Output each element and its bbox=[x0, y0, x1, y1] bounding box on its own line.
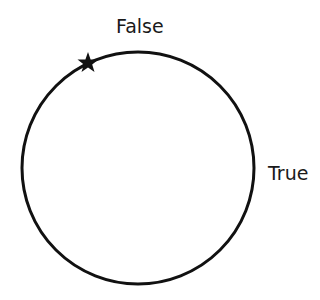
state-circle bbox=[22, 52, 254, 284]
label-true: True bbox=[268, 162, 308, 184]
cycle-diagram bbox=[0, 0, 320, 300]
label-false: False bbox=[116, 15, 164, 37]
star-icon bbox=[78, 52, 99, 72]
